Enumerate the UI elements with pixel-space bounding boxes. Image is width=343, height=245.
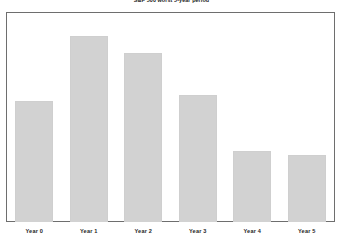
- bar-chart: S&P 500 worst 5-year period Year 0 Year …: [0, 0, 343, 245]
- x-axis-tick-label: Year 1: [62, 228, 116, 234]
- bar-slot: [62, 13, 116, 222]
- bar-slot: [7, 13, 61, 222]
- bar-year-0[interactable]: [15, 101, 53, 222]
- bar-slot: [171, 13, 225, 222]
- bar-slot: [116, 13, 170, 222]
- bar-year-2[interactable]: [124, 53, 162, 222]
- x-axis-tick-label: Year 5: [280, 228, 334, 234]
- x-axis-tick-label: Year 3: [171, 228, 225, 234]
- bar-slot: [280, 13, 334, 222]
- x-axis-labels: Year 0 Year 1 Year 2 Year 3 Year 4 Year …: [7, 228, 334, 234]
- bar-year-3[interactable]: [179, 95, 217, 222]
- chart-title: S&P 500 worst 5-year period: [0, 0, 343, 4]
- x-axis-tick-label: Year 0: [7, 228, 61, 234]
- x-axis-tick-label: Year 4: [225, 228, 279, 234]
- x-axis-tick-label: Year 2: [116, 228, 170, 234]
- bar-slot: [225, 13, 279, 222]
- bar-year-5[interactable]: [288, 155, 326, 222]
- bar-year-4[interactable]: [233, 151, 271, 222]
- plot-area: [7, 13, 334, 222]
- bar-year-1[interactable]: [70, 36, 108, 222]
